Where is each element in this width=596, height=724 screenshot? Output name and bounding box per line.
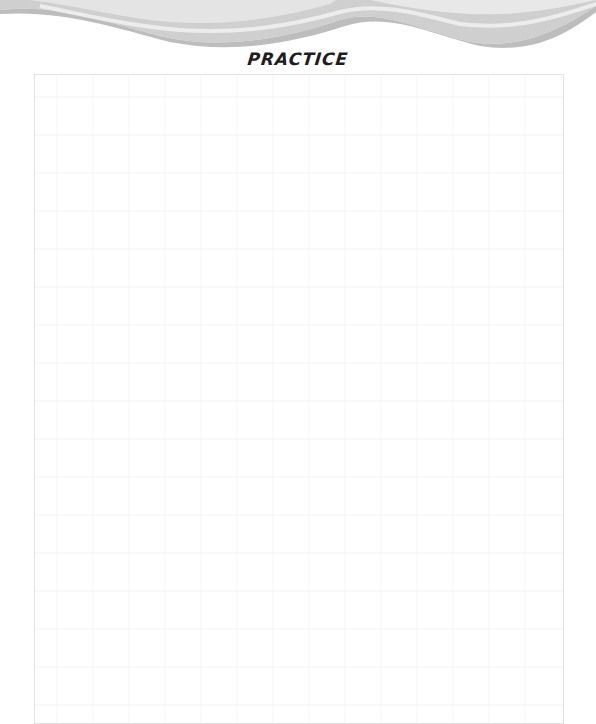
faint-grid-bleedthrough — [35, 75, 564, 724]
practice-writing-area[interactable] — [34, 74, 564, 724]
wave-header-decoration — [0, 0, 596, 52]
page-title: PRACTICE — [0, 49, 596, 69]
wave-icon — [0, 0, 596, 52]
